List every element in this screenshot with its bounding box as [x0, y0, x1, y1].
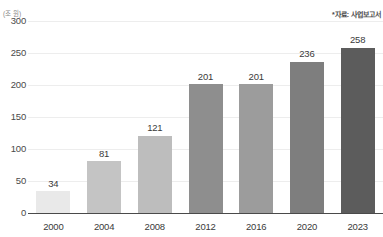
x-axis-tick-label: 2023: [331, 221, 383, 232]
bar-group[interactable]: 812004: [87, 24, 121, 213]
y-axis-tick-label: 100: [0, 144, 26, 154]
bar-value-label: 34: [28, 179, 78, 189]
bar-group[interactable]: 2012016: [239, 24, 273, 213]
bar-value-label: 236: [282, 49, 332, 59]
x-axis-tick-label: 2000: [26, 221, 80, 232]
bar-group[interactable]: 342000: [36, 24, 70, 213]
bar[interactable]: [189, 84, 223, 213]
x-axis-tick-label: 2008: [128, 221, 182, 232]
bar-group[interactable]: 2582023: [341, 24, 375, 213]
y-axis-tick-label: 300: [0, 16, 26, 26]
bar[interactable]: [290, 62, 324, 213]
y-axis-tick-label: 50: [0, 176, 26, 186]
bar[interactable]: [341, 48, 375, 213]
bar[interactable]: [239, 84, 273, 213]
bar-value-label: 201: [231, 72, 281, 82]
bar-group[interactable]: 2012012: [189, 24, 223, 213]
bar[interactable]: [36, 191, 70, 213]
bars-layer: 3420008120041212008201201220120162362020…: [28, 0, 383, 237]
y-axis-tick-label: 200: [0, 80, 26, 90]
bar[interactable]: [87, 161, 121, 213]
bar-group[interactable]: 2362020: [290, 24, 324, 213]
x-axis-tick-label: 2020: [280, 221, 334, 232]
y-axis-tick-label: 250: [0, 48, 26, 58]
bar-value-label: 201: [181, 72, 231, 82]
bar-chart: (조 원) *자료: 사업보고서 050100150200250300 3420…: [0, 0, 383, 237]
y-axis: 050100150200250300: [0, 0, 26, 237]
bar-value-label: 258: [333, 35, 383, 45]
x-axis-tick-label: 2016: [229, 221, 283, 232]
y-axis-tick-label: 0: [0, 208, 26, 218]
y-axis-tick-label: 150: [0, 112, 26, 122]
bar-value-label: 121: [130, 123, 180, 133]
bar-group[interactable]: 1212008: [138, 24, 172, 213]
x-axis-tick-label: 2012: [179, 221, 233, 232]
bar-value-label: 81: [79, 149, 129, 159]
bar[interactable]: [138, 136, 172, 213]
x-axis-tick-label: 2004: [77, 221, 131, 232]
